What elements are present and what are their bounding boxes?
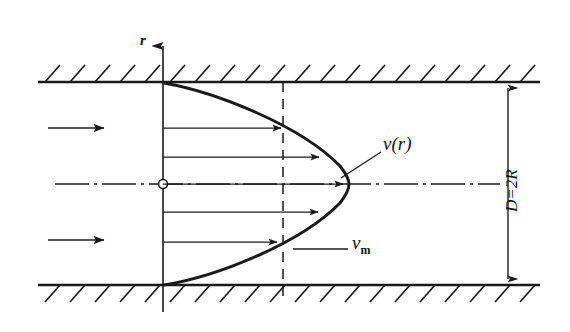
diagram-svg <box>0 0 570 332</box>
pipe-wall-bottom <box>38 285 540 302</box>
label-velocity-profile: v(r) <box>383 133 411 155</box>
leader-line-vr <box>341 152 381 178</box>
axis-label-r: r <box>140 32 146 49</box>
pipe-wall-top <box>38 65 540 82</box>
label-max-velocity: vm <box>352 232 370 258</box>
label-max-velocity-subscript: m <box>360 243 370 257</box>
figure-canvas: r v(r) vm D=2R <box>0 0 570 332</box>
label-diameter: D=2R <box>502 169 522 212</box>
